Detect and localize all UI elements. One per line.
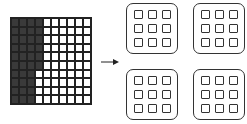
grid-cell xyxy=(19,70,27,79)
group-box-1 xyxy=(126,3,178,54)
grid-cell xyxy=(27,52,35,61)
square-icon xyxy=(134,104,143,113)
square-icon xyxy=(229,24,238,33)
grid-cell xyxy=(43,35,51,44)
square-icon xyxy=(215,38,224,47)
square-icon xyxy=(162,24,171,33)
square-icon xyxy=(148,10,157,19)
square-icon xyxy=(162,76,171,85)
square-icon xyxy=(148,76,157,85)
grid-cell xyxy=(75,61,83,70)
grid-cell xyxy=(67,78,75,87)
grid-cell xyxy=(43,95,51,104)
grid-cell xyxy=(35,61,43,70)
square-icon xyxy=(162,104,171,113)
grid-cell xyxy=(19,61,27,70)
square-icon xyxy=(215,90,224,99)
square-icon xyxy=(134,38,143,47)
grid-cell xyxy=(11,44,19,53)
grid-cell xyxy=(83,95,91,104)
square-icon xyxy=(215,24,224,33)
square-icon xyxy=(215,10,224,19)
grid-cell xyxy=(19,95,27,104)
grid-cell xyxy=(75,18,83,27)
grid-cell xyxy=(43,78,51,87)
grid-cell xyxy=(75,70,83,79)
grid-cell xyxy=(75,87,83,96)
grid-cell xyxy=(51,87,59,96)
grid-cell xyxy=(59,95,67,104)
square-icon xyxy=(134,10,143,19)
grid-cell xyxy=(19,27,27,36)
grid-cell xyxy=(35,87,43,96)
square-icon xyxy=(162,38,171,47)
grid-cell xyxy=(27,61,35,70)
grid-cell xyxy=(67,35,75,44)
grid-cell xyxy=(59,44,67,53)
grid-cell xyxy=(83,87,91,96)
square-icon xyxy=(215,76,224,85)
grid-cell xyxy=(51,44,59,53)
grid-cell xyxy=(43,70,51,79)
grid-cell xyxy=(75,95,83,104)
grid-cell xyxy=(51,27,59,36)
grid-cell xyxy=(75,78,83,87)
grid-cell xyxy=(83,52,91,61)
grid-cell xyxy=(59,61,67,70)
square-icon xyxy=(201,104,210,113)
hundred-grid xyxy=(10,17,92,105)
grid-cell xyxy=(43,27,51,36)
square-icon xyxy=(229,38,238,47)
grid-cell xyxy=(35,18,43,27)
square-icon xyxy=(134,90,143,99)
grid-cell xyxy=(59,78,67,87)
grid-cell xyxy=(27,78,35,87)
square-icon xyxy=(201,90,210,99)
grid-cell xyxy=(11,27,19,36)
grid-cell xyxy=(11,95,19,104)
grid-cell xyxy=(27,18,35,27)
square-icon xyxy=(201,76,210,85)
grid-cell xyxy=(83,18,91,27)
grid-cell xyxy=(19,44,27,53)
grid-cell xyxy=(43,18,51,27)
grid-cell xyxy=(67,52,75,61)
grid-cell xyxy=(83,70,91,79)
grid-cell xyxy=(35,52,43,61)
grid-cell xyxy=(11,61,19,70)
grid-cell xyxy=(59,27,67,36)
square-icon xyxy=(229,76,238,85)
grid-cell xyxy=(67,87,75,96)
grid-cell xyxy=(19,87,27,96)
grid-cell xyxy=(75,35,83,44)
square-icon xyxy=(201,10,210,19)
grid-cell xyxy=(11,87,19,96)
square-icon xyxy=(148,104,157,113)
grid-cell xyxy=(27,87,35,96)
square-icon xyxy=(134,76,143,85)
grid-cell xyxy=(11,78,19,87)
grid-cell xyxy=(59,18,67,27)
grid-cell xyxy=(19,35,27,44)
grid-cell xyxy=(83,27,91,36)
grid-cell xyxy=(27,44,35,53)
grid-cell xyxy=(19,18,27,27)
square-icon xyxy=(148,24,157,33)
grid-cell xyxy=(11,35,19,44)
square-icon xyxy=(201,24,210,33)
grid-cell xyxy=(43,52,51,61)
grid-cell xyxy=(27,27,35,36)
grid-cell xyxy=(35,95,43,104)
grid-cell xyxy=(27,95,35,104)
grid-cell xyxy=(67,44,75,53)
grid-cell xyxy=(67,18,75,27)
grid-cell xyxy=(51,78,59,87)
square-icon xyxy=(229,104,238,113)
grid-cell xyxy=(67,70,75,79)
grid-cell xyxy=(75,44,83,53)
grid-cell xyxy=(83,35,91,44)
group-box-2 xyxy=(193,3,245,54)
arrow-right-icon xyxy=(101,58,119,66)
grid-cell xyxy=(83,78,91,87)
grid-cell xyxy=(59,87,67,96)
